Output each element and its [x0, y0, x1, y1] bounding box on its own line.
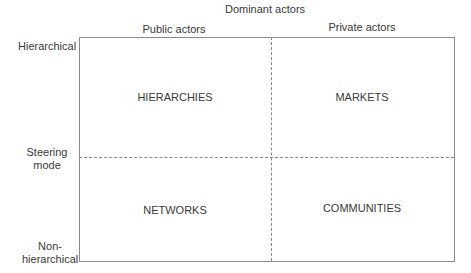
column-header-public-actors: Public actors	[143, 23, 206, 35]
quadrant-networks: NETWORKS	[143, 204, 207, 216]
quadrant-markets: MARKETS	[335, 91, 388, 103]
column-header-private-actors: Private actors	[328, 21, 395, 33]
dominant-actors-title: Dominant actors	[225, 3, 305, 15]
y-axis-bottom-label: Non- hierarchical	[22, 240, 78, 266]
y-axis-title: Steering mode	[22, 146, 72, 172]
quadrant-hierarchies: HIERARCHIES	[137, 91, 212, 103]
quadrant-communities: COMMUNITIES	[323, 202, 401, 214]
vertical-divider	[271, 37, 272, 261]
y-axis-bottom-line1: Non-	[22, 240, 78, 253]
horizontal-divider	[79, 157, 454, 158]
quadrant-frame	[79, 37, 455, 262]
y-axis-top-label: Hierarchical	[18, 40, 76, 52]
y-axis-title-line2: mode	[22, 159, 72, 172]
y-axis-bottom-line2: hierarchical	[22, 253, 78, 266]
y-axis-title-line1: Steering	[22, 146, 72, 159]
